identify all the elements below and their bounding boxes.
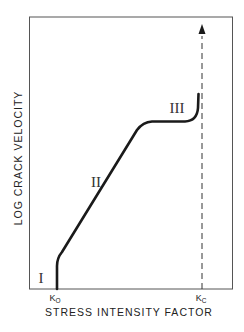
crack-velocity-curve — [57, 94, 199, 289]
x-axis-label: STRESS INTENSITY FACTOR — [45, 306, 213, 318]
tick-label-kc: KC — [196, 293, 207, 304]
up-arrow-icon — [199, 24, 206, 34]
region-label-ii: II — [91, 174, 101, 190]
region-label-i: I — [39, 270, 44, 286]
tick-label-k0: KO — [49, 293, 60, 304]
crack-velocity-diagram: I II III KO KC STRESS INTENSITY FACTOR L… — [0, 0, 244, 332]
y-axis-label: LOG CRACK VELOCITY — [12, 91, 24, 226]
region-label-iii: III — [170, 100, 185, 116]
